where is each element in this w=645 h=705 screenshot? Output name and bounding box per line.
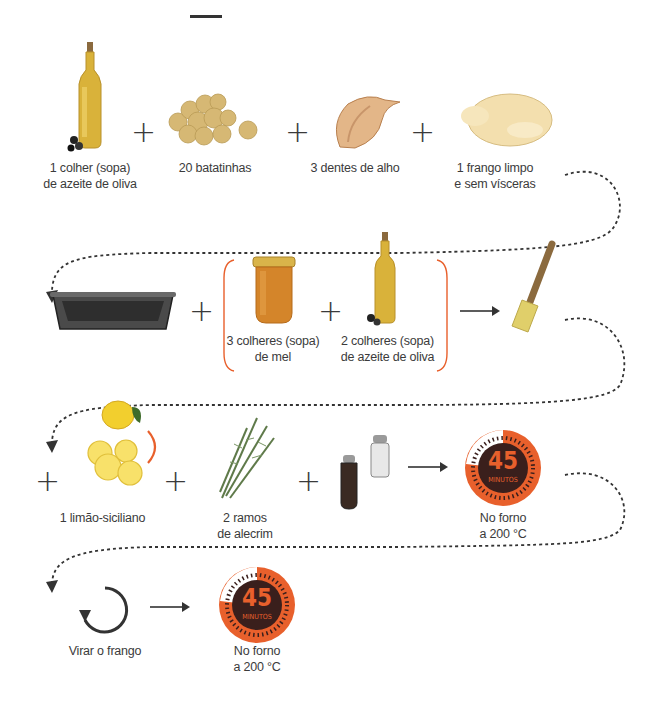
timer-unit: MINUTOS <box>217 613 297 621</box>
item-label: 1 colher (sopa)de azeite de oliva <box>30 160 150 192</box>
plus-operator: + <box>318 296 342 326</box>
pastry-brush-icon <box>510 240 560 335</box>
salt-pepper-mill-icon <box>335 435 395 515</box>
arrow-right-icon <box>408 461 448 473</box>
item-label: 3 dentes de alho <box>300 160 410 176</box>
item-label: Virar o frango <box>50 643 160 659</box>
plus-operator: + <box>131 117 155 147</box>
rotate-icon <box>75 580 135 640</box>
timer-value: 45 <box>217 584 297 612</box>
rosemary-icon <box>212 408 282 503</box>
garlic-icon <box>330 92 400 152</box>
plus-operator: + <box>285 117 309 147</box>
item-label: 3 colheres (sopa)de mel <box>218 333 328 365</box>
honey-jar-icon <box>250 255 300 325</box>
arrow-right-icon <box>460 305 500 317</box>
plus-operator: + <box>410 117 434 147</box>
item-label: No fornoa 200 °C <box>453 510 553 542</box>
arrow-right-icon <box>150 601 190 613</box>
plus-operator: + <box>296 466 320 496</box>
plus-operator: + <box>163 466 187 496</box>
item-label: No fornoa 200 °C <box>207 643 307 675</box>
potatoes-icon <box>160 90 270 150</box>
item-label: 1 frango limpoe sem vísceras <box>440 160 550 192</box>
olive-oil-bottle-icon <box>365 232 405 327</box>
timer-value: 45 <box>463 447 543 475</box>
timer-icon: 45 MINUTOS <box>463 428 543 508</box>
item-label: 2 ramosde alecrim <box>195 510 295 542</box>
item-label: 2 colheres (sopa)de azeite de oliva <box>330 333 445 365</box>
item-label: 1 limão-siciliano <box>45 510 160 526</box>
lemon-icon <box>78 395 158 495</box>
olive-oil-bottle-icon <box>65 42 115 152</box>
timer-icon: 45 MINUTOS <box>217 565 297 645</box>
roasting-pan-icon <box>48 287 178 337</box>
item-label: 20 batatinhas <box>160 160 270 176</box>
chicken-icon <box>455 90 555 150</box>
plus-operator: + <box>35 466 59 496</box>
plus-operator: + <box>189 296 213 326</box>
timer-unit: MINUTOS <box>463 476 543 484</box>
